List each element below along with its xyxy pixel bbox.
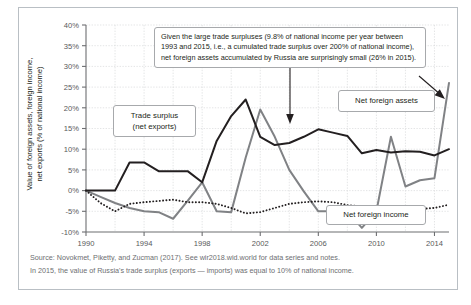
figure-root: Value of foreign assets, foreign income,… [0,0,471,305]
y-tick-label: 5% [68,166,79,175]
y-tick-label: 40% [64,21,79,30]
x-tick-label: 1994 [136,239,153,248]
x-axis-ticks: 1990199419982002200620102014 [78,232,443,248]
x-tick-label: 2006 [310,239,327,248]
figure-notes: Source: Novokmet, Piketty, and Zucman (2… [30,251,450,277]
x-tick-label: 1990 [78,239,95,248]
y-tick-label: -10% [61,228,79,237]
y-tick-label: 20% [64,104,79,113]
x-tick-label: 1998 [194,239,211,248]
x-tick-label: 2002 [252,239,269,248]
y-tick-label: 30% [64,62,79,71]
annotation-callout: Given the large trade surpluses (9.8% of… [154,27,426,68]
label-trade-surplus-line-1: Trade surplus [117,110,192,121]
annotation-arrow-down [286,64,294,124]
x-tick-label: 2014 [426,239,443,248]
y-tick-label: 35% [64,42,79,51]
label-trade-surplus: Trade surplus (net exports) [113,105,196,137]
note-source: Source: Novokmet, Piketty, and Zucman (2… [30,251,450,264]
y-tick-label: 10% [64,145,79,154]
y-tick-label: 25% [64,83,79,92]
label-net-foreign-assets: Net foreign assets [338,90,435,112]
y-axis-ticks: 40%35%30%25%20%15%10%5%0%-5%-10% [61,21,86,237]
y-tick-label: 15% [64,124,79,133]
label-net-foreign-income: Net foreign income [326,205,426,225]
note-reading: In 2015, the value of Russia's trade sur… [30,264,450,277]
x-tick-label: 2010 [368,239,385,248]
y-tick-label: 0% [68,186,79,195]
label-trade-surplus-line-2: (net exports) [117,121,192,132]
y-tick-label: -5% [65,207,79,216]
